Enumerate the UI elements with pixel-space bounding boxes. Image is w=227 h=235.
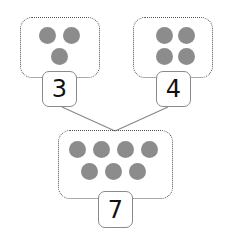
dot	[51, 48, 68, 65]
dot	[156, 48, 173, 65]
dot	[117, 141, 134, 158]
total-dot-group	[58, 130, 173, 199]
left-number-box: 3	[42, 71, 77, 107]
dot	[129, 163, 146, 180]
left-dot-group	[20, 17, 100, 78]
dot	[69, 141, 86, 158]
dot	[63, 27, 80, 44]
dot	[156, 27, 173, 44]
dot	[178, 48, 195, 65]
right-dot-group	[133, 17, 213, 78]
dot	[39, 27, 56, 44]
dot	[141, 141, 158, 158]
dot	[81, 163, 98, 180]
dot	[105, 163, 122, 180]
dot	[93, 141, 110, 158]
total-number-box: 7	[98, 191, 133, 228]
right-number-box: 4	[156, 71, 191, 107]
dot	[178, 27, 195, 44]
